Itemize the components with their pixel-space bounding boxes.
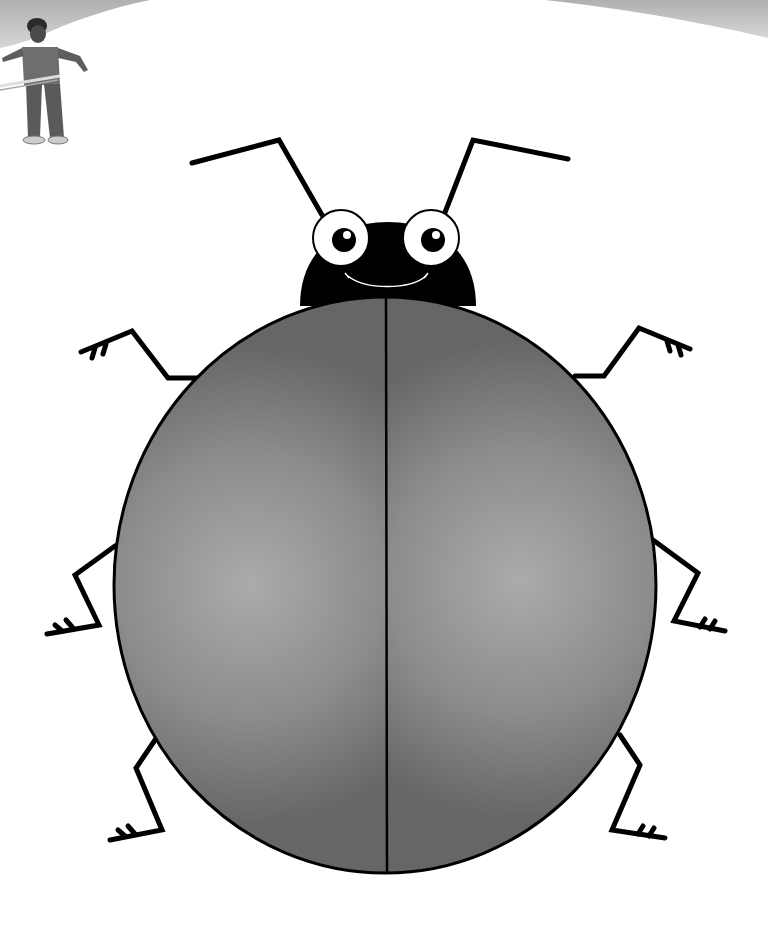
leg-lower-left-icon (110, 740, 162, 840)
leg-upper-left-icon (81, 331, 200, 378)
top-banner-left (0, 0, 150, 48)
leg-middle-right-icon (653, 540, 725, 631)
shell-divider (386, 298, 387, 872)
bug-shell (114, 297, 656, 873)
antenna-left-icon (192, 140, 322, 215)
leg-lower-right-icon (612, 735, 665, 838)
antennae (192, 140, 568, 215)
leg-middle-left-icon (47, 546, 115, 634)
antenna-right-icon (444, 140, 568, 215)
coloring-scene (0, 0, 768, 932)
leg-upper-right-icon (575, 328, 690, 376)
top-banner-right (545, 0, 768, 38)
eye-right-icon (403, 210, 459, 266)
eye-left-icon (313, 210, 369, 266)
